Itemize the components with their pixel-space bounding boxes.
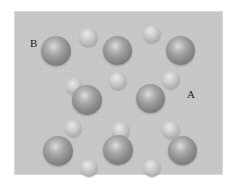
atom-a-16 bbox=[80, 159, 98, 177]
label-a: A bbox=[187, 89, 195, 100]
atom-b-15 bbox=[168, 136, 197, 165]
atom-a-5 bbox=[109, 72, 127, 90]
figure-canvas: BA bbox=[0, 0, 237, 191]
diagram-panel: BA bbox=[14, 11, 223, 175]
atom-b-4 bbox=[166, 36, 195, 65]
atom-b-8 bbox=[72, 85, 102, 115]
atom-b-14 bbox=[103, 135, 133, 165]
atom-a-17 bbox=[143, 159, 161, 177]
label-b: B bbox=[30, 38, 38, 49]
atom-b-9 bbox=[136, 84, 165, 113]
atom-a-0 bbox=[79, 28, 98, 47]
atom-b-13 bbox=[43, 136, 73, 166]
atom-b-3 bbox=[103, 36, 132, 65]
atom-a-10 bbox=[65, 120, 82, 137]
atom-b-2 bbox=[41, 36, 71, 66]
atom-a-1 bbox=[143, 25, 161, 43]
atom-a-6 bbox=[162, 71, 180, 89]
